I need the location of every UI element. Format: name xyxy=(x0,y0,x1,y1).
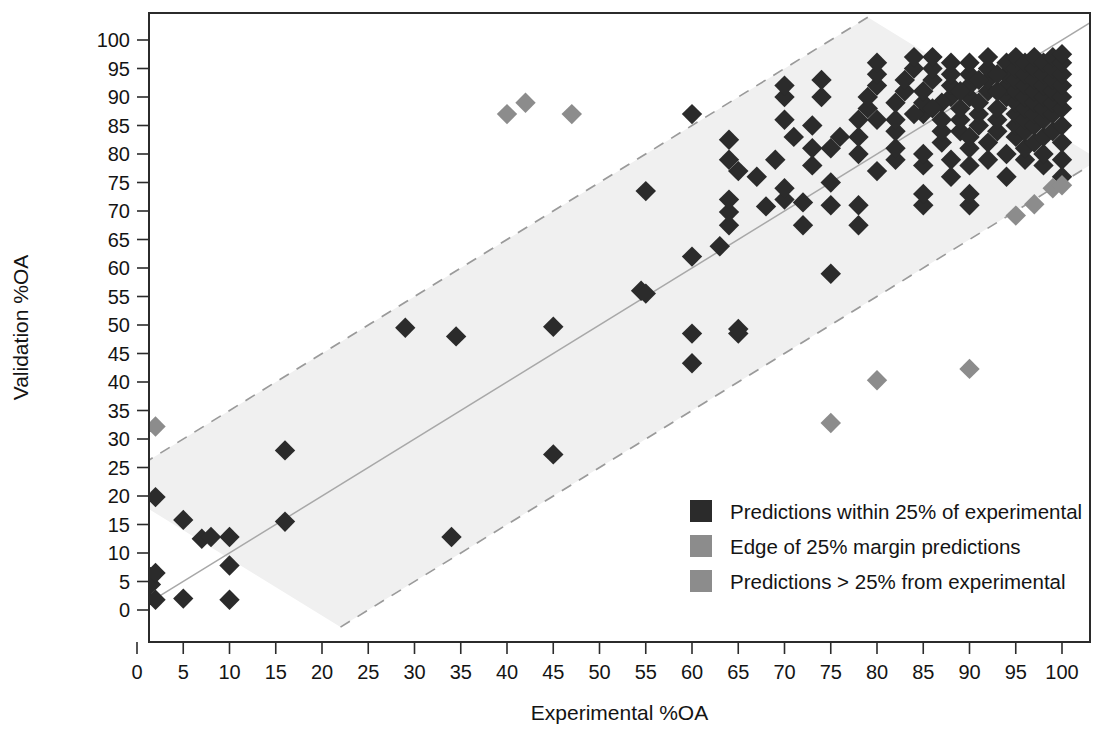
y-axis-tick-label: 100 xyxy=(97,29,130,51)
x-axis-tick-label: 75 xyxy=(820,661,842,683)
x-axis-tick-label: 5 xyxy=(178,661,189,683)
x-axis-tick-label: 85 xyxy=(912,661,934,683)
x-axis-tick-label: 100 xyxy=(1045,661,1078,683)
data-point-diamond xyxy=(515,93,535,113)
y-axis-tick-label: 25 xyxy=(108,457,130,479)
x-axis-tick-label: 70 xyxy=(773,661,795,683)
legend: Predictions within 25% of experimentalEd… xyxy=(690,500,1082,593)
x-axis-tick-label: 45 xyxy=(542,661,564,683)
legend-label-1: Edge of 25% margin predictions xyxy=(730,535,1021,558)
legend-label-2: Predictions > 25% from experimental xyxy=(730,570,1066,593)
y-axis-tick-label: 90 xyxy=(108,86,130,108)
x-axis-tick-label: 10 xyxy=(218,661,240,683)
x-axis-tick-label: 80 xyxy=(866,661,888,683)
y-axis-tick-label: 30 xyxy=(108,428,130,450)
x-axis-tick-label: 95 xyxy=(1005,661,1027,683)
data-point-diamond xyxy=(497,104,517,124)
data-point-diamond xyxy=(562,104,583,124)
data-point-diamond xyxy=(978,47,998,67)
y-axis-tick-label: 35 xyxy=(108,400,130,422)
y-axis-tick-label: 45 xyxy=(108,343,130,365)
y-axis-tick-label: 10 xyxy=(108,542,130,564)
y-axis-tick-label: 65 xyxy=(108,229,130,251)
data-point-diamond xyxy=(821,413,842,433)
x-axis: 0510152025303540455055606570758085909510… xyxy=(131,642,1078,724)
data-point-diamond xyxy=(867,370,887,390)
x-axis-tick-label: 20 xyxy=(311,661,333,683)
y-axis-tick-label: 0 xyxy=(119,599,130,621)
x-axis-tick-label: 90 xyxy=(958,661,980,683)
y-axis-tick-label: 95 xyxy=(108,58,130,80)
x-axis-tick-label: 15 xyxy=(265,661,287,683)
x-axis-tick-label: 30 xyxy=(403,661,425,683)
x-axis-tick-label: 65 xyxy=(727,661,749,683)
legend-swatch-1 xyxy=(690,535,712,557)
y-axis-title: Validation %OA xyxy=(9,255,32,401)
scatter-chart: 0510152025303540455055606570758085909510… xyxy=(0,0,1113,732)
y-axis-tick-label: 70 xyxy=(108,200,130,222)
legend-swatch-0 xyxy=(690,500,712,522)
y-axis-tick-label: 5 xyxy=(119,571,130,593)
y-axis-tick-label: 60 xyxy=(108,257,130,279)
x-axis-tick-label: 40 xyxy=(496,661,518,683)
legend-label-0: Predictions within 25% of experimental xyxy=(730,500,1082,523)
x-axis-tick-label: 35 xyxy=(450,661,472,683)
y-axis-tick-label: 75 xyxy=(108,172,130,194)
y-axis-tick-label: 40 xyxy=(108,371,130,393)
y-axis-tick-label: 55 xyxy=(108,286,130,308)
x-axis-tick-label: 60 xyxy=(681,661,703,683)
y-axis-tick-label: 80 xyxy=(108,143,130,165)
data-point-diamond xyxy=(959,53,979,73)
x-axis-tick-label: 55 xyxy=(635,661,657,683)
x-axis-tick-label: 50 xyxy=(588,661,610,683)
legend-swatch-2 xyxy=(690,570,712,592)
data-point-diamond xyxy=(219,590,239,610)
data-point-diamond xyxy=(173,588,193,608)
y-axis-tick-label: 20 xyxy=(108,485,130,507)
data-point-diamond xyxy=(959,359,979,379)
x-axis-tick-label: 0 xyxy=(131,661,142,683)
x-axis-title: Experimental %OA xyxy=(531,701,708,724)
y-axis-tick-label: 15 xyxy=(108,514,130,536)
x-axis-tick-label: 25 xyxy=(357,661,379,683)
y-axis: 0510152025303540455055606570758085909510… xyxy=(9,29,149,621)
y-axis-tick-label: 50 xyxy=(108,314,130,336)
y-axis-tick-label: 85 xyxy=(108,115,130,137)
